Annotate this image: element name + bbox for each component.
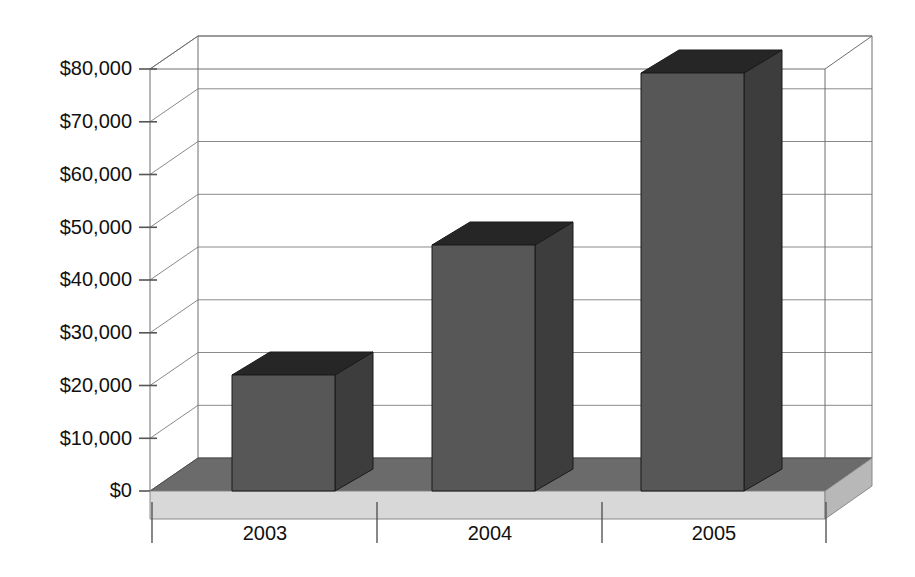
y-axis-labels: $80,000 $70,000 $60,000 $50,000 $40,000 … <box>60 57 132 501</box>
bar-2004[interactable] <box>432 222 573 491</box>
bar-front-face <box>432 245 535 491</box>
x-axis-tick-label-2003: 2003 <box>243 522 288 544</box>
y-axis-tick-label: $0 <box>110 479 132 501</box>
floor-front-edge <box>150 491 825 519</box>
bar-front-face <box>641 73 744 491</box>
y-axis-tick-label: $60,000 <box>60 163 132 185</box>
y-axis-tick-label: $30,000 <box>60 321 132 343</box>
y-axis-tick-label: $10,000 <box>60 427 132 449</box>
column-chart-3d: $80,000 $70,000 $60,000 $50,000 $40,000 … <box>0 0 915 577</box>
bar-side-face <box>335 352 373 491</box>
x-axis-labels: 2003 2004 2005 <box>243 522 737 544</box>
bar-2003[interactable] <box>232 352 373 491</box>
y-axis-tick-label: $50,000 <box>60 216 132 238</box>
y-axis-tick-label: $40,000 <box>60 268 132 290</box>
bar-front-face <box>232 375 335 491</box>
x-axis-tick-label-2004: 2004 <box>468 522 513 544</box>
y-axis-tick-label: $80,000 <box>60 57 132 79</box>
y-axis-tick-label: $70,000 <box>60 110 132 132</box>
bar-2005[interactable] <box>641 50 782 491</box>
y-axis-tick-label: $20,000 <box>60 374 132 396</box>
bar-side-face <box>744 50 782 491</box>
bar-side-face <box>535 222 573 491</box>
x-axis-tick-label-2005: 2005 <box>692 522 737 544</box>
chart-container: $80,000 $70,000 $60,000 $50,000 $40,000 … <box>0 0 915 577</box>
